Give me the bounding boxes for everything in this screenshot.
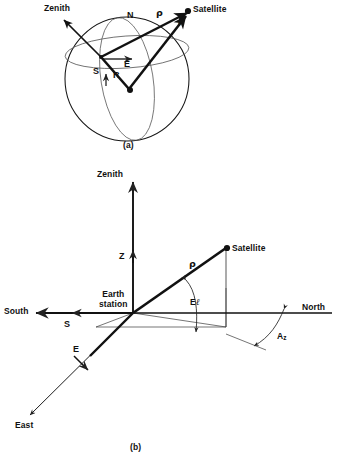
E-vector-label-b: E xyxy=(73,344,79,354)
satellite-label-b: Satellite xyxy=(232,244,266,254)
Z-vector-label-b: Z xyxy=(119,251,125,261)
east-label-b: East xyxy=(15,421,33,431)
figure-vector-graphics xyxy=(0,0,338,464)
east-axis-bold-segment xyxy=(90,313,133,356)
panel-b-graphics xyxy=(30,182,332,415)
rho-label-a: ρ xyxy=(156,8,163,19)
satellite-dot-b xyxy=(224,245,230,251)
panel-a-caption: (a) xyxy=(123,141,134,151)
figure-root: Zenith Satellite N S ρ r R E (a) Zenith … xyxy=(0,0,338,464)
zenith-label-b: Zenith xyxy=(97,170,123,180)
ground-plane-diagonal xyxy=(133,313,226,327)
elevation-angle-script-l: ℓ xyxy=(196,297,200,307)
r-vector-label-a: r xyxy=(178,18,182,28)
earth-station-dot-a xyxy=(99,55,103,59)
S-vector-label-b: S xyxy=(64,319,70,329)
earth-center-dot-a xyxy=(127,87,133,93)
panel-a-graphics xyxy=(64,8,191,144)
earth-meridian-ellipse xyxy=(92,14,163,145)
rho-label-b: ρ xyxy=(189,259,196,270)
earth-station-label-line1: Earth xyxy=(102,289,124,299)
E-vector-b xyxy=(74,356,88,370)
satellite-label-a: Satellite xyxy=(193,5,227,15)
earth-station-label-line2: station xyxy=(99,299,128,309)
earth-station-label: Earth station xyxy=(99,290,128,310)
south-pole-label-a: S xyxy=(93,66,99,76)
north-pole-label-a: N xyxy=(127,10,134,20)
E-vector-label-a: E xyxy=(124,59,130,69)
south-label-b: South xyxy=(4,307,29,317)
zenith-label-a: Zenith xyxy=(44,4,70,14)
satellite-dot-a xyxy=(185,8,191,14)
elevation-angle-label: Eℓ xyxy=(190,297,200,308)
azimuth-angle-subscript: z xyxy=(283,334,286,341)
north-label-b: North xyxy=(302,303,325,313)
rho-vector-b xyxy=(133,248,226,313)
R-vector-label-a: R xyxy=(113,70,120,80)
panel-b-caption: (b) xyxy=(130,443,141,453)
azimuth-angle-label: Az xyxy=(277,332,287,342)
